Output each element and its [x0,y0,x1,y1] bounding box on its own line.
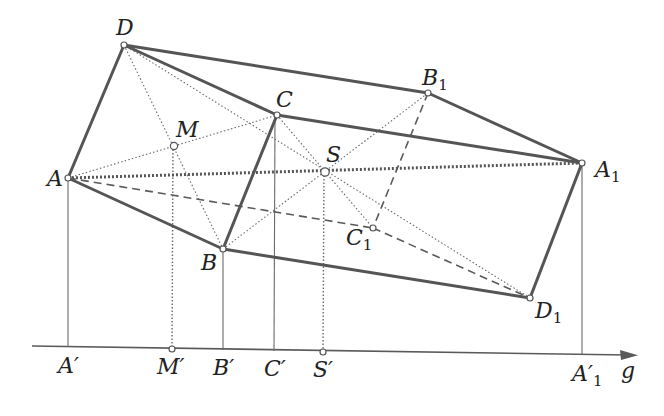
axis-line [32,346,628,355]
points [65,42,585,355]
label-A1-prime: A′1 [570,361,602,390]
hidden-edges [68,93,530,298]
label-S-prime: S′ [313,357,333,382]
label-A-prime: A′ [56,353,79,378]
point-M-prime [169,346,175,352]
label-S: S [326,142,341,167]
edge-D-B1 [124,45,428,93]
point-A [65,175,71,181]
point-S-prime [320,349,326,355]
projection-lines [68,118,582,355]
label-B-prime: B′ [212,355,234,380]
edge-A-C1 [68,178,373,228]
edge-B-D1 [223,249,530,298]
point-D [121,42,127,48]
label-C-prime: C′ [264,356,286,381]
label-C1: C1 [346,225,372,254]
label-A1: A1 [593,157,620,186]
edge-B1-A1 [428,93,582,163]
label-D1: D1 [534,298,562,327]
point-C1 [370,225,376,231]
edge-D1-A1 [530,163,582,298]
edge-A-D [68,45,124,178]
projection-S [323,172,324,352]
point-M [170,142,177,149]
label-M: M [175,117,199,142]
axis-g [32,346,638,360]
labels: D C M A S B B1 A1 C1 D1 A′ M′ B′ C′ S′ A… [45,15,635,390]
point-A1 [579,160,585,166]
label-C: C [276,87,293,112]
point-B1 [425,90,431,96]
point-B [220,246,226,252]
point-C [274,112,280,118]
label-B: B [200,250,217,275]
projection-C [274,118,275,351]
edge-D-C [124,45,277,115]
geometry-diagram: D C M A S B B1 A1 C1 D1 A′ M′ B′ C′ S′ A… [0,0,664,416]
label-B1: B1 [421,65,448,94]
label-axis-g: g [621,358,635,383]
point-S [321,168,329,176]
point-D1 [527,295,533,301]
edge-C1-D1 [373,228,530,298]
label-M-prime: M′ [156,354,185,379]
edge-A-B [68,178,223,249]
label-D: D [115,15,134,40]
label-A: A [45,166,63,191]
edge-C-A1 [277,115,582,163]
